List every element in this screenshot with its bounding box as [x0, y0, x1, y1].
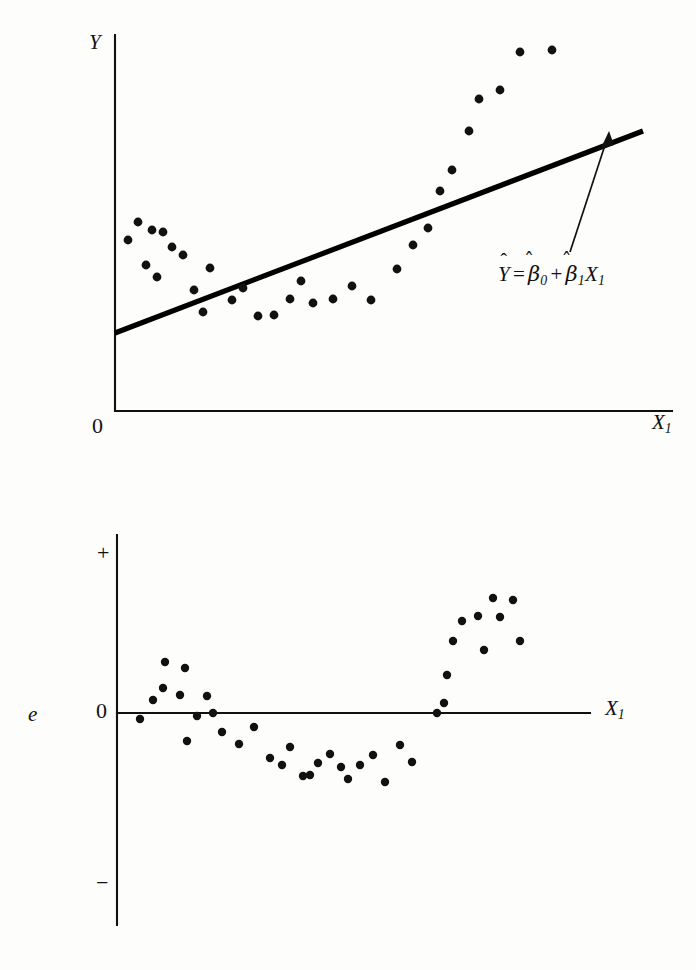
data-point [344, 775, 352, 783]
residual-plus-label: + [97, 542, 109, 564]
data-point [475, 95, 484, 104]
data-point [489, 594, 497, 602]
data-point [329, 295, 338, 304]
data-point [440, 699, 448, 707]
data-point [209, 709, 217, 717]
bottom-chart-group [106, 535, 590, 925]
data-point [436, 187, 445, 196]
data-point [239, 284, 248, 293]
data-point [199, 308, 208, 317]
data-point [409, 241, 418, 250]
data-point [297, 277, 306, 286]
data-point [254, 312, 263, 321]
data-point [516, 48, 525, 57]
data-point [286, 295, 295, 304]
data-point [396, 741, 404, 749]
data-point [159, 228, 168, 237]
data-point [134, 218, 143, 227]
figure-container: Y 0 X1 ̂Y=̂β0+̂β1X1 e + 0 − X1 [0, 0, 696, 970]
regression-line [115, 131, 643, 333]
data-point [142, 261, 151, 270]
top-origin-label: 0 [92, 415, 103, 437]
data-point [270, 311, 279, 320]
residual-x-axis-label: X1 [605, 698, 625, 722]
data-point [206, 264, 215, 273]
top-scatter-points [124, 46, 557, 321]
data-point [306, 771, 314, 779]
fitted-line-equation: ̂Y=̂β0+̂β1X1 [498, 264, 605, 288]
data-point [148, 226, 157, 235]
data-point [509, 596, 517, 604]
data-point [516, 637, 524, 645]
data-point [235, 740, 243, 748]
data-point [393, 265, 402, 274]
data-point [496, 613, 504, 621]
data-point [193, 712, 201, 720]
figure-canvas [0, 0, 696, 970]
residual-x-axis-var: X [605, 696, 618, 720]
data-point [149, 696, 157, 704]
data-point [337, 763, 345, 771]
data-point [153, 273, 162, 282]
data-point [496, 86, 505, 95]
data-point [203, 692, 211, 700]
data-point [179, 251, 188, 260]
equation-plus: + [547, 262, 565, 286]
data-point [474, 612, 482, 620]
data-point [458, 617, 466, 625]
residual-x-axis-sub: 1 [618, 707, 625, 722]
data-point [367, 296, 376, 305]
equation-x: X [585, 262, 598, 286]
residual-minus-label: − [96, 872, 108, 894]
data-point [161, 658, 169, 666]
data-point [309, 299, 318, 308]
data-point [286, 743, 294, 751]
data-point [424, 224, 433, 233]
residual-axis-label: e [28, 704, 37, 725]
residual-zero-label: 0 [96, 700, 107, 722]
data-point [465, 127, 474, 136]
data-point [181, 664, 189, 672]
top-y-axis-label: Y [89, 32, 101, 53]
data-point [433, 709, 441, 717]
data-point [480, 646, 488, 654]
data-point [448, 166, 457, 175]
data-point [159, 684, 167, 692]
beta-zero: ̂β [528, 264, 540, 285]
equation-equals: = [510, 262, 528, 286]
top-x-axis-var: X [652, 410, 665, 434]
residual-scatter-points [136, 594, 524, 786]
data-point [183, 737, 191, 745]
top-x-axis-label: X1 [652, 412, 672, 436]
equation-x-subscript: 1 [598, 273, 605, 288]
data-point [190, 286, 199, 295]
data-point [548, 46, 557, 55]
y-hat: ̂Y [498, 264, 510, 285]
data-point [348, 282, 357, 291]
data-point [443, 671, 451, 679]
data-point [266, 754, 274, 762]
data-point [369, 751, 377, 759]
data-point [278, 761, 286, 769]
data-point [176, 691, 184, 699]
data-point [408, 758, 416, 766]
data-point [326, 750, 334, 758]
data-point [356, 761, 364, 769]
top-x-axis-sub: 1 [665, 421, 672, 436]
data-point [314, 759, 322, 767]
data-point [381, 778, 389, 786]
beta-one: ̂β [565, 264, 577, 285]
data-point [124, 236, 133, 245]
data-point [136, 715, 144, 723]
data-point [168, 243, 177, 252]
data-point [449, 637, 457, 645]
data-point [228, 296, 237, 305]
data-point [250, 723, 258, 731]
beta1-subscript: 1 [578, 273, 585, 288]
data-point [218, 728, 226, 736]
top-chart-group [115, 35, 672, 411]
